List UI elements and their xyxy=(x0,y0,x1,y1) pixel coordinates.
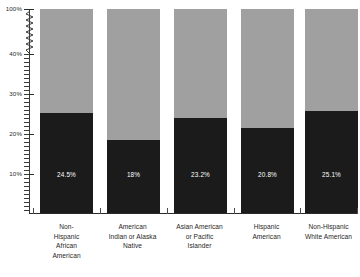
bar-segment-lower xyxy=(40,113,93,213)
x-category-label-1: American Indian or Alaska Native xyxy=(96,222,169,251)
x-tick-2 xyxy=(167,208,168,214)
y-axis-minor-tick xyxy=(24,158,30,159)
bar-value-label: 25.1% xyxy=(305,171,358,178)
y-label-40: 40% xyxy=(0,50,22,57)
y-axis-minor-tick xyxy=(24,202,30,203)
x-tick-4 xyxy=(300,208,301,214)
x-category-line: Islander xyxy=(163,241,236,251)
y-axis-minor-tick xyxy=(24,54,30,55)
y-label-30: 30% xyxy=(0,90,22,97)
x-tick-3 xyxy=(234,208,235,214)
y-label-100: 100% xyxy=(0,5,22,12)
y-axis-minor-tick xyxy=(24,170,30,171)
bar-segment-lower xyxy=(305,111,358,213)
x-category-line: Asian American xyxy=(163,222,236,232)
y-axis-minor-tick xyxy=(24,150,30,151)
y-axis-minor-tick xyxy=(24,74,30,75)
y-axis-minor-tick xyxy=(24,86,30,87)
x-category-line: Hispanic xyxy=(232,222,301,232)
x-category-line: Non-Hispanic xyxy=(297,222,360,232)
bar-value-label: 24.5% xyxy=(40,171,93,178)
y-label-10: 10% xyxy=(0,170,22,177)
x-category-line: Native xyxy=(96,241,169,251)
bar-segment-upper xyxy=(174,9,227,118)
y-axis-minor-tick xyxy=(24,98,30,99)
axis-break-zigzag xyxy=(24,11,36,54)
bar-segment-upper xyxy=(40,9,93,113)
y-axis-minor-tick xyxy=(24,162,30,163)
bar-american-indian-or-alaska-native: 18% xyxy=(107,9,160,213)
bar-segment-upper xyxy=(107,9,160,140)
y-axis-minor-tick xyxy=(24,62,30,63)
bar-asian-american-or-pacific-islander: 23.2% xyxy=(174,9,227,213)
y-axis-minor-tick xyxy=(24,210,30,211)
x-category-line: or Pacific xyxy=(163,232,236,242)
y-axis-minor-tick xyxy=(24,142,30,143)
y-axis-minor-tick xyxy=(24,186,30,187)
x-category-line: Non- xyxy=(31,222,102,232)
x-category-line: African xyxy=(31,241,102,251)
y-axis-minor-tick xyxy=(24,126,30,127)
y-axis-minor-tick xyxy=(24,82,30,83)
y-axis-minor-tick xyxy=(24,66,30,67)
stacked-bar-chart: 100% 40% 30% 20% 10% 24.5% 18% 23.2% 20.… xyxy=(0,0,360,277)
y-axis-minor-tick xyxy=(24,138,30,139)
y-axis-minor-tick xyxy=(24,178,30,179)
y-axis-minor-tick xyxy=(24,130,30,131)
y-axis-minor-tick xyxy=(24,102,30,103)
x-tick-0 xyxy=(33,208,34,214)
y-axis-minor-tick xyxy=(24,190,30,191)
bar-value-label: 20.8% xyxy=(241,171,294,178)
bar-hispanic-american: 20.8% xyxy=(241,9,294,213)
y-axis-minor-tick xyxy=(24,114,30,115)
x-category-line: American xyxy=(31,251,102,261)
bar-segment-upper xyxy=(241,9,294,128)
y-axis-minor-tick xyxy=(24,78,30,79)
y-axis-minor-tick xyxy=(24,58,30,59)
bar-segment-upper xyxy=(305,9,358,111)
x-tick-1 xyxy=(100,208,101,214)
y-axis-minor-tick xyxy=(24,182,30,183)
y-axis-minor-tick xyxy=(24,166,30,167)
y-axis-minor-tick xyxy=(24,198,30,199)
y-tick-100 xyxy=(24,9,34,10)
x-category-line: Hispanic xyxy=(31,232,102,242)
y-axis-minor-tick xyxy=(24,174,30,175)
y-label-20: 20% xyxy=(0,130,22,137)
bar-segment-lower xyxy=(174,118,227,213)
y-axis-minor-tick xyxy=(24,122,30,123)
bar-value-label: 23.2% xyxy=(174,171,227,178)
x-category-line: White American xyxy=(297,232,360,242)
y-axis-minor-tick xyxy=(24,94,30,95)
x-category-line: American xyxy=(96,222,169,232)
y-axis-minor-tick xyxy=(24,206,30,207)
y-axis-minor-tick xyxy=(24,90,30,91)
y-axis-minor-tick xyxy=(24,106,30,107)
y-axis-minor-tick xyxy=(24,70,30,71)
bar-value-label: 18% xyxy=(107,171,160,178)
bar-non-hispanic-white-american: 25.1% xyxy=(305,9,358,213)
x-tick-5 xyxy=(357,208,358,214)
x-category-label-0: Non- Hispanic African American xyxy=(31,222,102,260)
x-axis-line xyxy=(29,213,358,214)
x-category-label-3: Hispanic American xyxy=(232,222,301,241)
x-category-line: American xyxy=(232,232,301,242)
y-axis-minor-tick xyxy=(24,118,30,119)
x-category-label-4: Non-Hispanic White American xyxy=(297,222,360,241)
y-axis-minor-tick xyxy=(24,154,30,155)
y-axis-minor-tick xyxy=(24,110,30,111)
x-category-label-2: Asian American or Pacific Islander xyxy=(163,222,236,251)
y-axis-minor-tick xyxy=(24,146,30,147)
y-axis-minor-tick xyxy=(24,194,30,195)
y-axis-minor-tick xyxy=(24,134,30,135)
x-category-line: Indian or Alaska xyxy=(96,232,169,242)
bar-non-hispanic-african-american: 24.5% xyxy=(40,9,93,213)
